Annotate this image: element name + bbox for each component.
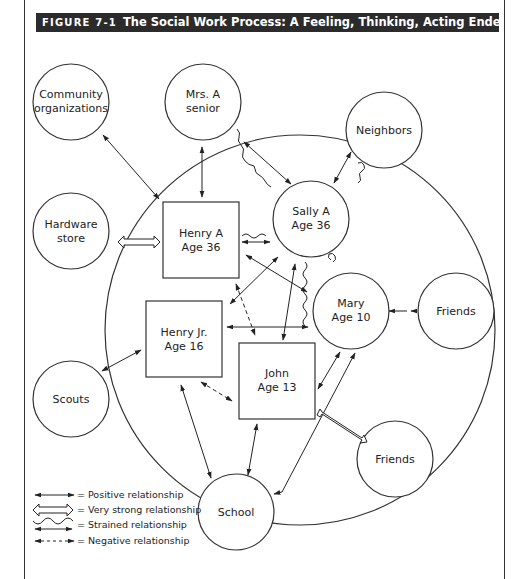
legend-very-strong: = Very strong relationship: [33, 504, 201, 516]
hardware-label-1: Hardware: [44, 218, 97, 231]
node-mrs-a-senior: Mrs. A senior: [165, 64, 241, 140]
strained-wavy-icon: [33, 518, 73, 524]
node-henry-a: Henry A Age 36: [163, 202, 239, 278]
ecomap-diagram: Community organizations Mrs. A senior Ne…: [0, 0, 523, 579]
mrs-a-label-1: Mrs. A: [186, 88, 221, 101]
mrs-a-label-2: senior: [186, 102, 220, 115]
legend-negative-label: = Negative relationship: [77, 535, 189, 546]
sally-a-label-2: Age 36: [292, 219, 331, 232]
community-label-2: organizations: [34, 102, 108, 115]
neighbors-label: Neighbors: [356, 124, 412, 137]
node-friends-lower: Friends: [357, 421, 433, 497]
henry-a-label-1: Henry A: [179, 227, 224, 240]
legend-positive-label: = Positive relationship: [77, 489, 183, 500]
legend-positive: = Positive relationship: [35, 489, 183, 500]
john-label-1: John: [264, 367, 289, 380]
community-label-1: Community: [39, 88, 103, 101]
mary-label-1: Mary: [337, 297, 365, 310]
node-mary: Mary Age 10: [313, 273, 389, 349]
node-community-organizations: Community organizations: [33, 64, 109, 140]
node-hardware-store: Hardware store: [33, 193, 109, 269]
henry-jr-label-1: Henry Jr.: [161, 326, 208, 339]
node-neighbors: Neighbors: [346, 92, 422, 168]
node-school: School: [198, 474, 274, 550]
legend-strained: = Strained relationship: [33, 518, 187, 530]
legend-strained-label: = Strained relationship: [77, 519, 187, 530]
hardware-label-2: store: [57, 232, 85, 245]
friends-right-label: Friends: [436, 305, 476, 318]
school-label: School: [218, 506, 255, 519]
legend-very-strong-label: = Very strong relationship: [77, 504, 201, 515]
legend: = Positive relationship = Very strong re…: [33, 489, 201, 546]
legend-negative: = Negative relationship: [35, 535, 189, 546]
henry-a-label-2: Age 36: [182, 241, 221, 254]
henry-jr-label-2: Age 16: [165, 340, 204, 353]
node-friends-right: Friends: [418, 273, 494, 349]
node-henry-jr: Henry Jr. Age 16: [146, 301, 222, 377]
very-strong-arrow-icon: [33, 504, 73, 516]
mary-label-2: Age 10: [332, 311, 371, 324]
node-sally-a: Sally A Age 36: [273, 181, 349, 257]
friends-lower-label: Friends: [375, 453, 415, 466]
node-john: John Age 13: [239, 343, 315, 419]
node-scouts: Scouts: [33, 361, 109, 437]
john-label-2: Age 13: [258, 381, 297, 394]
scouts-label: Scouts: [53, 393, 90, 406]
sally-a-label-1: Sally A: [292, 205, 330, 218]
